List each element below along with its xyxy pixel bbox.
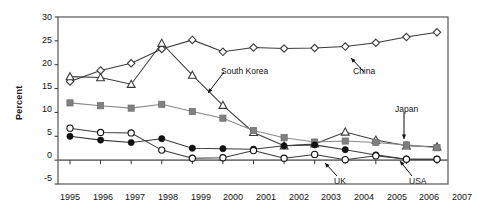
- data-point-filled-square: [67, 100, 73, 106]
- data-point-open-triangle: [341, 128, 349, 135]
- data-point-open-circle: [250, 148, 256, 154]
- data-point-filled-square: [220, 115, 226, 121]
- data-point-open-triangle: [158, 39, 166, 46]
- data-point-open-circle: [128, 130, 134, 136]
- data-point-filled-square: [403, 142, 409, 148]
- series-line: [70, 32, 437, 81]
- data-point-open-diamond: [342, 43, 349, 50]
- data-point-open-circle: [189, 155, 195, 161]
- data-point-filled-square: [159, 101, 165, 107]
- data-point-filled-square: [97, 103, 103, 109]
- data-point-open-diamond: [219, 48, 226, 55]
- data-point-open-diamond: [127, 60, 134, 67]
- data-point-filled-square: [434, 145, 440, 151]
- data-point-open-circle: [67, 125, 73, 131]
- data-point-filled-square: [281, 135, 287, 141]
- data-point-filled-square: [128, 105, 134, 111]
- data-point-open-circle: [281, 155, 287, 161]
- plot-frame: [58, 17, 448, 184]
- data-point-filled-circle: [159, 136, 165, 142]
- data-point-open-triangle: [66, 73, 74, 80]
- data-point-filled-circle: [67, 133, 73, 139]
- series-japan: [67, 100, 440, 151]
- data-point-filled-square: [373, 139, 379, 145]
- leader-china: [351, 58, 364, 72]
- data-point-filled-circle: [342, 147, 348, 153]
- data-point-open-diamond: [372, 39, 379, 46]
- data-point-open-diamond: [189, 36, 196, 43]
- data-point-filled-circle: [128, 139, 134, 145]
- data-point-open-diamond: [403, 33, 410, 40]
- data-point-filled-square: [189, 108, 195, 114]
- data-point-filled-circle: [97, 137, 103, 143]
- data-point-open-diamond: [433, 29, 440, 36]
- data-point-filled-circle: [281, 143, 287, 149]
- data-point-filled-circle: [312, 142, 318, 148]
- data-point-filled-circle: [189, 145, 195, 151]
- data-point-open-circle: [342, 157, 348, 163]
- data-point-open-circle: [220, 155, 226, 161]
- data-point-filled-square: [250, 127, 256, 133]
- leader-uk: [325, 163, 337, 176]
- data-point-open-circle: [312, 151, 318, 157]
- leader-japan: [402, 112, 406, 139]
- data-point-open-diamond: [311, 44, 318, 51]
- leader-south-korea: [208, 72, 224, 93]
- data-point-open-circle: [434, 156, 440, 162]
- data-point-open-diamond: [250, 44, 257, 51]
- data-point-open-circle: [159, 147, 165, 153]
- data-point-filled-circle: [220, 146, 226, 152]
- data-point-open-circle: [403, 156, 409, 162]
- data-point-open-diamond: [280, 45, 287, 52]
- series-china: [66, 29, 440, 86]
- data-point-open-circle: [373, 153, 379, 159]
- data-point-open-circle: [97, 129, 103, 135]
- data-point-filled-square: [342, 138, 348, 144]
